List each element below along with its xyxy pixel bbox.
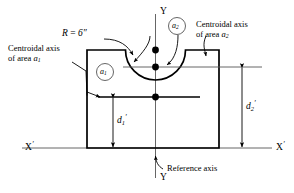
centroidal-axis-a1-label: Centroidal axis of area a1	[8, 44, 60, 64]
centroid-dot-a1	[152, 94, 159, 101]
figure-canvas: Y Y X′ X′ R = 6″ Centroidal axis of area…	[0, 0, 294, 193]
centroid-dot-a2	[152, 64, 159, 71]
leader-area-a2	[167, 35, 178, 65]
diagram-drawing	[0, 0, 294, 193]
axis-label-y-bottom: Y	[160, 172, 167, 183]
area-a1-label: a1	[100, 67, 107, 77]
axis-label-x-right-letter: X	[276, 142, 283, 152]
axis-label-x-right-prime: ′	[283, 140, 285, 149]
radius-equals-sign: =	[70, 28, 75, 38]
radius-dimension-label: R = 6″	[62, 28, 87, 39]
leader-reference-axis	[156, 156, 164, 169]
centroidal-axis-a2-label-line2: of area a2	[196, 30, 248, 40]
centroidal-axis-a1-label-line2: of area a1	[8, 54, 60, 64]
reference-axis-label: Reference axis	[167, 164, 217, 174]
axis-label-x-right: X′	[276, 141, 285, 153]
centroidal-axis-a2-label-subscript: 2	[226, 33, 229, 39]
radius-value: 6″	[78, 28, 87, 38]
dimension-d2-label: d2′	[246, 100, 256, 112]
axis-label-x-left-prime: ′	[32, 140, 34, 149]
dimension-d1-label: d1′	[117, 114, 127, 126]
leader-centroidal-a1	[72, 62, 100, 97]
centroidal-axis-a2-label: Centroidal axis of area a2	[196, 20, 248, 40]
axis-label-x-left-letter: X	[25, 142, 32, 152]
area-a2-label: a2	[172, 21, 179, 31]
centroid-dot-top	[152, 47, 159, 54]
area-a1-subscript: 1	[104, 70, 107, 76]
axis-label-y-top: Y	[160, 6, 167, 17]
radius-symbol: R	[62, 28, 68, 38]
dimension-d2-prime: ′	[254, 99, 256, 108]
centroidal-axis-a1-label-prefix: of area	[8, 53, 33, 63]
centroidal-axis-a1-label-subscript: 1	[38, 57, 41, 63]
dimension-d1-prime: ′	[125, 113, 127, 122]
area-a2-subscript: 2	[176, 24, 179, 30]
axis-label-x-left: X′	[25, 141, 34, 153]
centroidal-axis-a2-label-prefix: of area	[196, 29, 221, 39]
